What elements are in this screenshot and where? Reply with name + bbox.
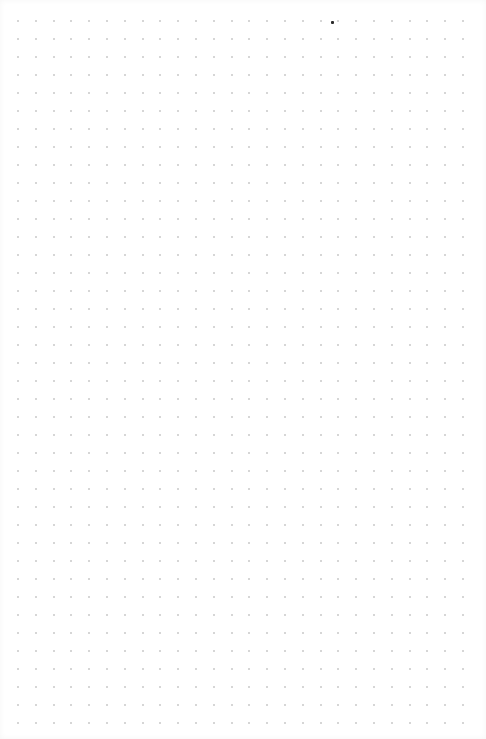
grid-dot xyxy=(195,182,197,184)
grid-dot xyxy=(88,272,90,274)
grid-dot xyxy=(391,200,393,202)
grid-dot xyxy=(213,632,215,634)
grid-dot xyxy=(88,506,90,508)
grid-dot xyxy=(231,146,233,148)
grid-dot xyxy=(124,380,126,382)
grid-dot xyxy=(70,200,72,202)
grid-dot xyxy=(124,56,126,58)
grid-dot xyxy=(320,164,322,166)
grid-dot xyxy=(391,254,393,256)
grid-dot xyxy=(373,110,375,112)
grid-dot xyxy=(444,650,446,652)
grid-dot xyxy=(53,164,55,166)
grid-dot xyxy=(53,362,55,364)
grid-dot xyxy=(391,92,393,94)
grid-dot xyxy=(248,20,250,22)
grid-dot xyxy=(35,686,37,688)
grid-dot xyxy=(231,650,233,652)
grid-dot xyxy=(159,398,161,400)
grid-dot xyxy=(320,488,322,490)
grid-dot xyxy=(373,326,375,328)
grid-dot xyxy=(426,290,428,292)
grid-dot xyxy=(17,614,19,616)
grid-dot xyxy=(124,398,126,400)
grid-dot xyxy=(159,704,161,706)
grid-dot xyxy=(159,722,161,724)
grid-dot xyxy=(53,110,55,112)
grid-dot xyxy=(337,488,339,490)
grid-dot xyxy=(177,506,179,508)
grid-dot xyxy=(444,470,446,472)
grid-dot xyxy=(159,92,161,94)
grid-dot xyxy=(444,218,446,220)
grid-dot xyxy=(409,74,411,76)
grid-dot xyxy=(373,380,375,382)
grid-dot xyxy=(177,128,179,130)
grid-dot xyxy=(426,146,428,148)
grid-dot xyxy=(337,560,339,562)
grid-dot xyxy=(391,434,393,436)
grid-dot xyxy=(320,56,322,58)
grid-dot xyxy=(284,668,286,670)
grid-dot xyxy=(409,722,411,724)
grid-dot xyxy=(302,326,304,328)
grid-dot xyxy=(213,578,215,580)
grid-dot xyxy=(17,164,19,166)
grid-dot xyxy=(284,308,286,310)
grid-dot xyxy=(373,344,375,346)
grid-dot xyxy=(53,416,55,418)
grid-dot xyxy=(231,614,233,616)
grid-dot xyxy=(159,308,161,310)
grid-dot xyxy=(320,560,322,562)
grid-dot xyxy=(266,614,268,616)
grid-dot xyxy=(320,380,322,382)
grid-dot xyxy=(355,416,357,418)
grid-dot xyxy=(444,434,446,436)
grid-dot xyxy=(373,416,375,418)
grid-dot xyxy=(213,38,215,40)
grid-dot xyxy=(159,74,161,76)
grid-dot xyxy=(53,74,55,76)
grid-dot xyxy=(302,218,304,220)
grid-dot xyxy=(337,524,339,526)
grid-dot xyxy=(284,254,286,256)
grid-dot xyxy=(142,74,144,76)
grid-dot xyxy=(124,470,126,472)
grid-dot xyxy=(142,20,144,22)
grid-dot xyxy=(284,200,286,202)
grid-dot xyxy=(320,632,322,634)
grid-dot xyxy=(106,290,108,292)
grid-dot xyxy=(70,110,72,112)
grid-dot xyxy=(462,722,464,724)
grid-dot xyxy=(177,596,179,598)
grid-dot xyxy=(124,272,126,274)
grid-dot xyxy=(355,524,357,526)
grid-dot xyxy=(213,200,215,202)
grid-dot xyxy=(70,344,72,346)
grid-dot xyxy=(266,542,268,544)
grid-dot xyxy=(213,290,215,292)
grid-dot xyxy=(284,524,286,526)
grid-dot xyxy=(248,38,250,40)
grid-dot xyxy=(17,578,19,580)
grid-dot xyxy=(142,110,144,112)
grid-dot xyxy=(462,146,464,148)
grid-dot xyxy=(53,344,55,346)
grid-dot xyxy=(177,434,179,436)
grid-dot xyxy=(462,344,464,346)
grid-dot xyxy=(355,686,357,688)
grid-dot xyxy=(444,200,446,202)
grid-dot xyxy=(177,668,179,670)
grid-dot xyxy=(231,452,233,454)
grid-dot xyxy=(35,722,37,724)
grid-dot xyxy=(35,542,37,544)
grid-dot xyxy=(17,110,19,112)
grid-dot xyxy=(231,92,233,94)
grid-dot xyxy=(373,92,375,94)
grid-dot xyxy=(70,578,72,580)
grid-dot xyxy=(53,200,55,202)
grid-dot xyxy=(159,560,161,562)
grid-dot xyxy=(106,560,108,562)
grid-dot xyxy=(391,128,393,130)
grid-dot xyxy=(284,560,286,562)
